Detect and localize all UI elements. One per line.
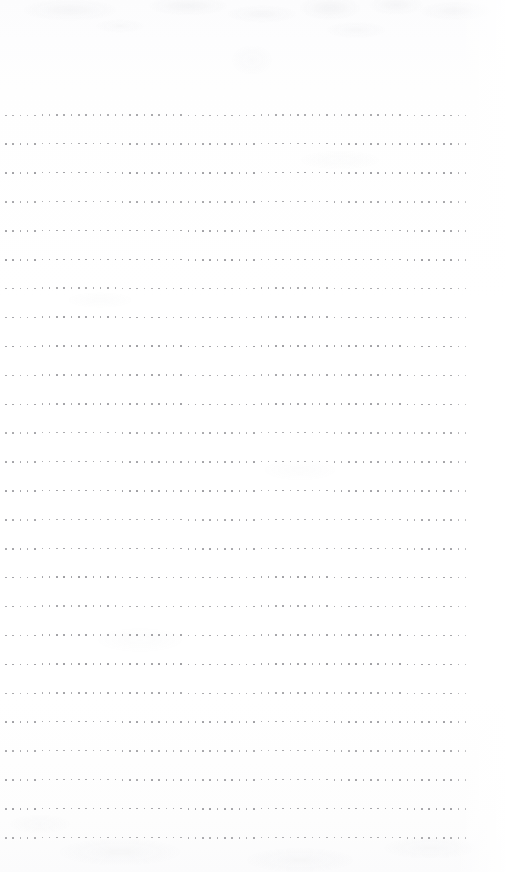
page-text-content bbox=[5, 115, 471, 839]
scanned-page bbox=[0, 0, 506, 872]
